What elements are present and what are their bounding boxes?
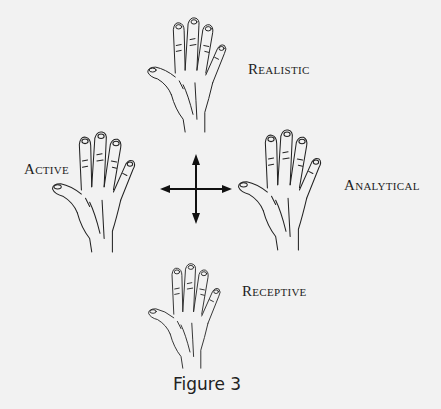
label-active: Active [24,161,69,178]
hand-illustration-receptive [142,262,238,370]
label-analytical: Analytical [344,177,420,194]
four-way-arrow-icon [158,153,234,225]
label-realistic: Realistic [248,61,310,78]
hand-illustration-analytical [234,128,338,252]
figure-caption: Figure 3 [173,374,241,394]
hand-illustration-active [48,130,152,254]
hand-illustration-realistic [143,16,243,134]
label-receptive: Receptive [242,283,307,300]
